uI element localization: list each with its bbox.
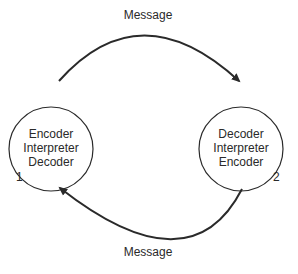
node-2-text: Decoder Interpreter Encoder <box>199 127 283 169</box>
top-arrow <box>59 36 239 82</box>
node-1-line-1: Encoder <box>9 127 93 141</box>
top-message-label: Message <box>118 8 178 22</box>
node-2-number: 2 <box>273 170 280 184</box>
bottom-arrow <box>60 188 242 239</box>
node-2-line-1: Decoder <box>199 127 283 141</box>
communication-diagram: Message Message Encoder Interpreter Deco… <box>0 0 298 274</box>
node-1-line-2: Interpreter <box>9 141 93 155</box>
node-1-text: Encoder Interpreter Decoder <box>9 127 93 169</box>
bottom-message-label: Message <box>118 245 178 259</box>
node-1-number: 1 <box>16 170 23 184</box>
node-2-line-3: Encoder <box>199 155 283 169</box>
node-2-line-2: Interpreter <box>199 141 283 155</box>
node-1-line-3: Decoder <box>9 155 93 169</box>
